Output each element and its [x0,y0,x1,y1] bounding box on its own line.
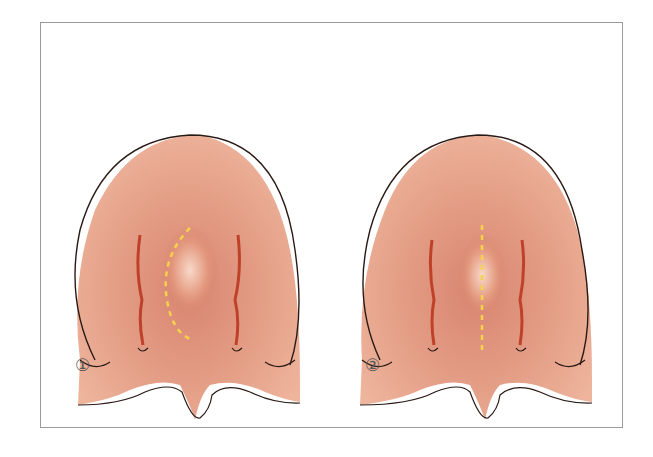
palate-1 [75,135,300,420]
panel-label-1: ① [75,355,90,375]
palate-2 [360,135,592,420]
palate-illustrations [0,0,653,457]
panel-label-2: ② [365,355,380,375]
